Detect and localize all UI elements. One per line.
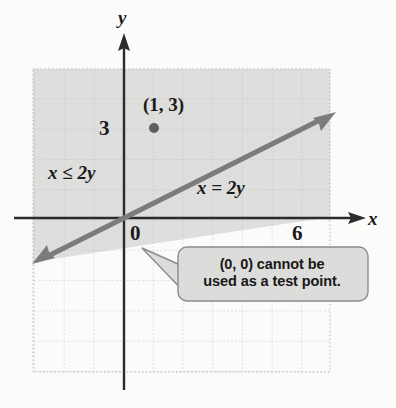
graph-figure: y x 3 0 6 (1, 3) x ≤ 2y x = 2y (0, 0) ca… [0, 0, 396, 408]
point-coordinate-label: (1, 3) [143, 95, 184, 114]
origin-label: 0 [130, 223, 141, 244]
callout-text: (0, 0) cannot be used as a test point. [186, 256, 358, 290]
inequality-label: x ≤ 2y [48, 163, 95, 182]
plotted-point-1-3 [149, 123, 159, 133]
graph-canvas [0, 0, 396, 408]
callout-line-1: (0, 0) cannot be [186, 256, 358, 273]
y-tick-label-3: 3 [99, 118, 110, 139]
line-equation-label: x = 2y [197, 178, 245, 197]
y-axis-label: y [118, 8, 126, 27]
x-tick-label-6: 6 [292, 223, 303, 244]
callout-line-2: used as a test point. [186, 273, 358, 290]
x-axis-label: x [368, 209, 378, 228]
